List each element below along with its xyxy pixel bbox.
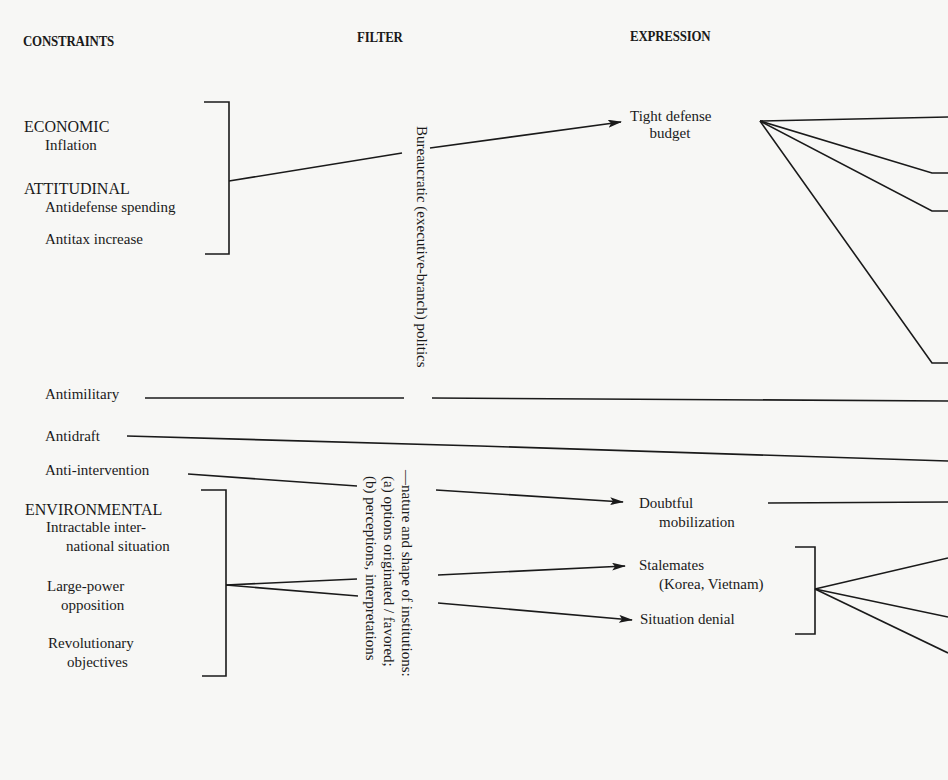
- diagram-connectors: [0, 0, 948, 780]
- econ-attitudinal-bracket: [204, 102, 229, 254]
